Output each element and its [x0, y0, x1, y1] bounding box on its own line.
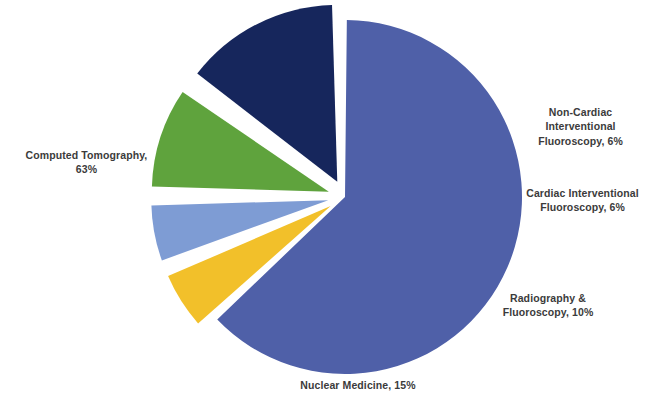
slice-label-cardiac-interventional-fluoroscopy: Cardiac Interventional Fluoroscopy, 6%	[515, 186, 650, 215]
slice-label-non-cardiac-interventional-fluoroscopy: Non-Cardiac Interventional Fluoroscopy, …	[513, 105, 648, 148]
slice-label-nuclear-medicine: Nuclear Medicine, 15%	[253, 378, 463, 392]
pie-slices-group	[151, 5, 522, 374]
pie-chart-figure: Computed Tomography, 63% Non-Cardiac Int…	[0, 0, 650, 408]
slice-label-computed-tomography: Computed Tomography, 63%	[4, 148, 169, 177]
slice-label-radiography-fluoroscopy: Radiography & Fluoroscopy, 10%	[468, 291, 628, 320]
